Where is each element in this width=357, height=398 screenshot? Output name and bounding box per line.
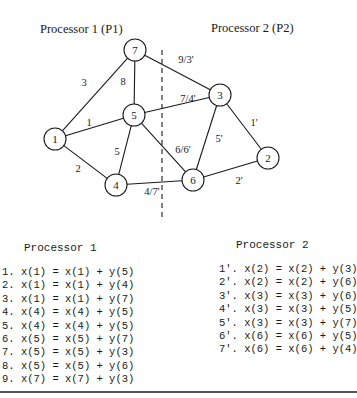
edge-label: 1' [250, 117, 257, 128]
edge-5-4 [119, 126, 132, 175]
node-7: 7 [124, 39, 146, 61]
code-line: 8. x(5) = x(5) + y(6) [2, 360, 134, 373]
edge-label: 2' [235, 175, 242, 186]
svg-text:6: 6 [190, 174, 196, 186]
code-line: 2. x(1) = x(1) + y(4) [2, 279, 134, 292]
code-line: 7'. x(6) = x(6) + y(4) [219, 343, 357, 356]
processor-2-title: Processor 2 [236, 239, 309, 251]
code-line: 4'. x(3) = x(3) + y(5) [219, 303, 357, 316]
edge-label: 5' [215, 133, 222, 144]
processor-2-label: Processor 2 (P2) [211, 21, 294, 35]
edge-7-5 [134, 61, 135, 104]
code-line: 6. x(5) = x(5) + y(7) [2, 333, 134, 346]
svg-text:1: 1 [52, 133, 58, 145]
node-2: 2 [257, 147, 279, 169]
edge-label: 7/4' [180, 93, 195, 104]
node-6: 6 [182, 169, 204, 191]
edge-label: 8 [120, 76, 125, 87]
edge-label: 2 [75, 163, 80, 174]
code-line: 4. x(4) = x(4) + y(5) [2, 306, 134, 319]
edge-5-3 [145, 97, 210, 112]
code-line: 1. x(1) = x(1) + y(5) [2, 266, 134, 279]
edge-label: 5 [114, 146, 119, 157]
processor-1-title: Processor 1 [24, 242, 97, 254]
edge-label: 6/6' [175, 144, 190, 155]
svg-text:2: 2 [265, 152, 271, 164]
edge-3-6 [196, 105, 216, 169]
code-line: 5. x(4) = x(4) + y(5) [2, 320, 134, 333]
code-line: 6'. x(6) = x(6) + y(5) [219, 330, 357, 343]
code-line: 9. x(7) = x(7) + y(3) [2, 373, 134, 386]
node-1: 1 [44, 128, 66, 150]
processor-2-code: 1'. x(2) = x(2) + y(3)2'. x(2) = x(2) + … [219, 263, 357, 357]
svg-text:3: 3 [217, 89, 223, 101]
code-line: 1'. x(2) = x(2) + y(3) [219, 263, 357, 276]
edges [62, 55, 261, 184]
bottom-divider [0, 391, 357, 393]
edge-label: 1 [86, 117, 91, 128]
code-line: 3'. x(3) = x(3) + y(6) [219, 290, 357, 303]
svg-text:7: 7 [132, 44, 138, 56]
node-3: 3 [209, 84, 231, 106]
edge-6-2 [204, 161, 258, 177]
node-5: 5 [123, 104, 145, 126]
code-line: 2'. x(2) = x(2) + y(6) [219, 276, 357, 289]
code-line: 7. x(5) = x(5) + y(3) [2, 346, 134, 359]
code-line: 5'. x(3) = x(3) + y(7) [219, 317, 357, 330]
edge-label: 9/3' [178, 54, 193, 65]
edge-1-4 [64, 146, 107, 179]
processor-1-label: Processor 1 (P1) [40, 22, 123, 36]
svg-text:4: 4 [113, 179, 119, 191]
code-line: 3. x(1) = x(1) + y(7) [2, 293, 134, 306]
svg-text:5: 5 [131, 109, 137, 121]
processor-1-code: 1. x(1) = x(1) + y(5)2. x(1) = x(1) + y(… [2, 266, 134, 387]
edge-label: 4/7' [144, 186, 159, 197]
task-graph: Processor 1 (P1) Processor 2 (P2) 381259… [0, 0, 357, 240]
edge-4-6 [127, 181, 182, 185]
edge-label: 3 [81, 77, 86, 88]
node-4: 4 [105, 174, 127, 196]
edge-1-5 [66, 118, 124, 136]
